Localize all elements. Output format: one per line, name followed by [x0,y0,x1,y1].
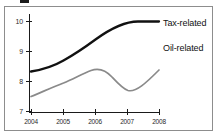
series-line-tax-related [31,22,159,72]
chart-figure: 10 9 8 7 2004 2005 2006 2007 2008 Tax-re… [0,0,218,136]
x-axis-label-2005: 2005 [50,118,76,125]
series-label-oil-related: Oil-related [163,43,203,53]
y-axis-label-8: 8 [7,78,23,85]
x-axis-label-2004: 2004 [18,118,44,125]
x-axis-label-2006: 2006 [82,118,108,125]
x-axis-label-2008: 2008 [146,118,172,125]
y-axis-label-7: 7 [7,108,23,115]
y-axis-label-10: 10 [7,18,23,25]
x-axis-label-2007: 2007 [114,118,140,125]
series-label-tax-related: Tax-related [163,18,206,28]
y-axis-label-9: 9 [7,48,23,55]
series-line-oil-related [31,69,159,96]
